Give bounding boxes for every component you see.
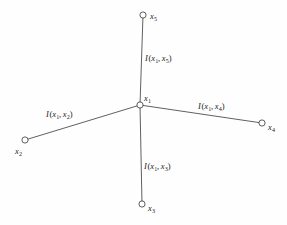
node-circle-x2	[22, 137, 28, 143]
node-label-x4: x4	[268, 123, 275, 132]
edge-line-x1-x2	[25, 105, 140, 140]
graph-svg	[0, 0, 287, 225]
node-label-x1: x1	[144, 94, 151, 103]
node-circle-x4	[259, 120, 265, 126]
node-circle-x3	[139, 201, 145, 207]
node-label-x3: x3	[148, 204, 155, 213]
edge-label-x1-x2: I(x1,x2)	[46, 110, 73, 119]
edge-label-x1-x5: I(x1,x5)	[145, 54, 172, 63]
figure-canvas: x1 x2 x3 x4 x5 I(x1,x2) I(x1,x3) I(x1,x4…	[0, 0, 287, 225]
edge-line-x1-x5	[140, 15, 143, 105]
edge-line-x1-x3	[140, 105, 142, 204]
node-circle-x1	[137, 102, 143, 108]
edge-label-x1-x4: I(x1,x4)	[198, 102, 225, 111]
node-circle-x5	[140, 12, 146, 18]
edge-label-x1-x3: I(x1,x3)	[144, 162, 171, 171]
node-label-x2: x2	[15, 147, 22, 156]
node-label-x5: x5	[150, 12, 157, 21]
